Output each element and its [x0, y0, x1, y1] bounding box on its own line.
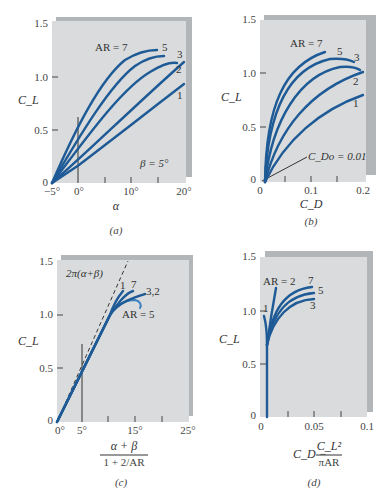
- x-tick-label: 0°: [55, 424, 65, 436]
- curve-label: 2: [353, 75, 359, 87]
- curve-label: 7: [308, 274, 314, 286]
- x-axis-label: C_D: [300, 197, 323, 211]
- curve-label: 1: [120, 279, 126, 291]
- y-tick-label: 0: [251, 409, 257, 421]
- x-axis-label-numerator: C_L²: [317, 439, 342, 453]
- x-tick-label: 25°: [180, 424, 195, 436]
- x-tick-label: 0: [257, 184, 263, 196]
- panel-caption: (a): [110, 224, 123, 237]
- y-axis-label: C_L: [18, 93, 39, 107]
- y-tick-label: 1.0: [242, 305, 256, 317]
- x-axis-label-numerator: α + β: [111, 439, 137, 453]
- panel-c: 1.5 1.0 0.5 0 0° 5° 15° 25° C_L α + β 1 …: [18, 255, 196, 489]
- ar-label: AR = 7: [95, 41, 128, 53]
- x-tick-label: 0.1: [304, 184, 318, 196]
- curve-label: 3: [177, 48, 183, 60]
- y-tick-label: 0.5: [242, 121, 256, 133]
- y-tick-label: 1.5: [34, 17, 48, 29]
- curve-label: 7: [131, 278, 137, 290]
- y-tick-label: 0.5: [34, 124, 48, 136]
- curve-label: 2: [176, 63, 182, 75]
- panel-caption: (d): [308, 476, 321, 489]
- x-tick-label: 0.2: [356, 184, 370, 196]
- y-tick-label: 0: [251, 173, 257, 185]
- ar-label: AR = 5: [122, 308, 155, 320]
- x-axis-label-denominator: 1 + 2/AR: [103, 456, 145, 468]
- x-tick-label: −5°: [44, 185, 60, 197]
- curve-label: 1: [263, 302, 269, 314]
- ar-label: AR = 7: [290, 37, 323, 49]
- x-tick-label: 5°: [77, 424, 87, 436]
- panel-d: 1.5 1.0 0.5 0 0 0.05 0.1 C_L C_D − C_L² …: [219, 250, 374, 489]
- panel-caption: (b): [305, 215, 318, 228]
- y-tick-label: 0: [48, 414, 54, 426]
- curve-label: 3,2: [146, 285, 160, 297]
- x-tick-label: 0: [258, 420, 264, 432]
- y-tick-label: 1.0: [34, 71, 48, 83]
- y-tick-label: 1.5: [242, 250, 256, 262]
- curve-label: 5: [318, 284, 324, 296]
- y-tick-label: 1.5: [242, 13, 256, 25]
- curve-label: 1: [353, 97, 359, 109]
- x-tick-label: 0.05: [304, 420, 324, 432]
- curve-label: 3: [310, 299, 316, 311]
- panel-caption: (c): [115, 476, 128, 489]
- theory-label: 2π(α+β): [66, 267, 103, 280]
- x-tick-label: 0°: [74, 185, 84, 197]
- x-axis-label-denominator: πAR: [319, 456, 340, 468]
- x-tick-label: 0.1: [360, 420, 374, 432]
- y-tick-label: 1.0: [242, 67, 256, 79]
- figure-canvas: 1.5 1.0 0.5 0 −5° 0° 10° 20° C_L α (a) A…: [0, 0, 385, 495]
- x-tick-label: 10°: [123, 185, 138, 197]
- curve-label: 5: [337, 45, 343, 57]
- ar-label: AR = 2: [263, 275, 295, 287]
- y-tick-label: 1.5: [39, 255, 53, 267]
- panel-a: 1.5 1.0 0.5 0 −5° 0° 10° 20° C_L α (a) A…: [18, 17, 192, 237]
- y-tick-label: 0.5: [242, 358, 256, 370]
- x-axis-label: α: [113, 199, 120, 213]
- y-tick-label: 0.5: [39, 362, 53, 374]
- x-tick-label: 20°: [176, 185, 191, 197]
- y-tick-label: 1.0: [39, 308, 53, 320]
- panel-b: 1.5 1.0 0.5 0 0 0.1 0.2 C_L C_D (b) AR =…: [221, 13, 376, 228]
- beta-label: β = 5°: [139, 157, 169, 169]
- y-axis-label: C_L: [219, 332, 240, 346]
- y-axis-label: C_L: [18, 334, 39, 348]
- cd0-label: C_Do = 0.01: [308, 150, 366, 162]
- curve-label: 5: [162, 41, 168, 53]
- y-axis-label: C_L: [221, 90, 242, 104]
- x-tick-label: 15°: [127, 424, 142, 436]
- curve-label: 1: [177, 89, 183, 101]
- curve-label: 3: [354, 51, 360, 63]
